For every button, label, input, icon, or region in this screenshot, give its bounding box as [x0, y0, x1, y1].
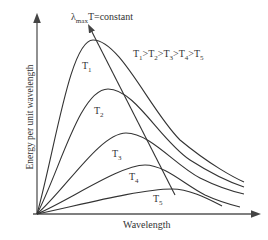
curve-label-t3: T3	[112, 148, 122, 162]
blackbody-diagram	[0, 0, 268, 240]
curve-t2	[37, 89, 244, 214]
curve-label-t5: T5	[153, 193, 163, 207]
curve-label-t2: T2	[94, 105, 104, 119]
wien-law-label: λmaxT=constant	[71, 11, 133, 25]
x-axis-label: Wavelength	[123, 219, 171, 230]
curve-label-t1: T1	[82, 60, 92, 74]
y-axis-label: Energy per unit wavelength	[25, 57, 35, 177]
curve-label-t4: T4	[129, 171, 139, 185]
temperature-order-label: T1>T2>T3>T4>T5	[133, 48, 204, 62]
curve-t5	[37, 189, 222, 214]
